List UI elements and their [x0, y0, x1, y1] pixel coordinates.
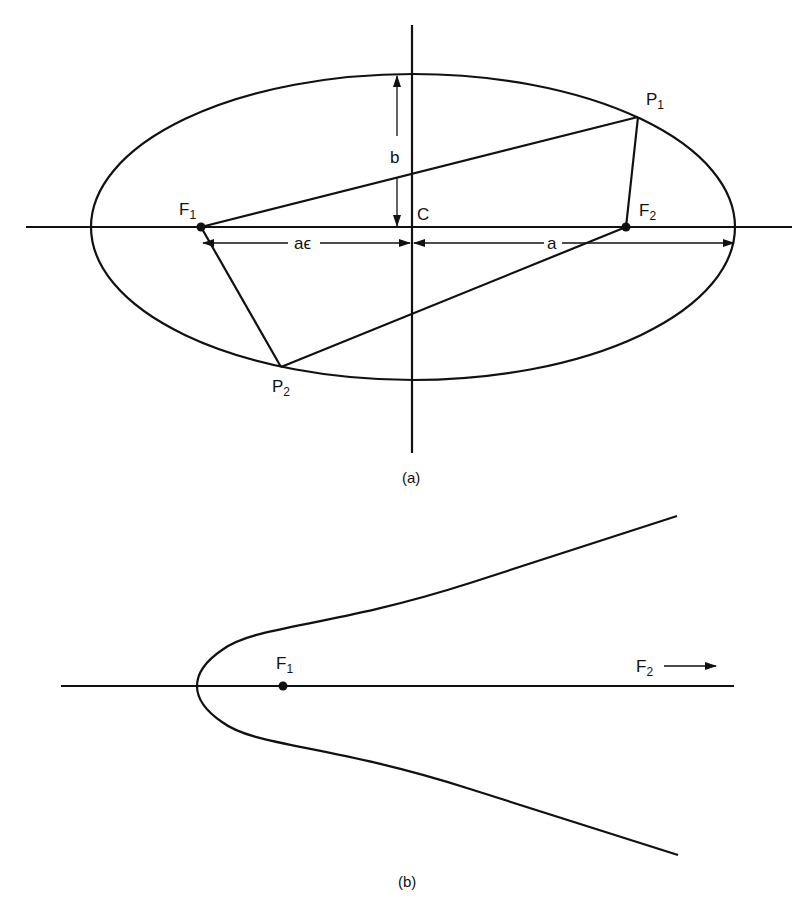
- focus-f1-dot: [197, 223, 206, 232]
- radius-f2-p1: [626, 117, 638, 227]
- figure-b-caption: (b): [398, 873, 416, 890]
- focus-f2-label: F2: [639, 201, 656, 223]
- focus-f1-dot: [279, 682, 288, 691]
- radius-f2-p2: [281, 227, 626, 367]
- focus-f1-label: F1: [276, 654, 293, 676]
- point-p2-label: P2: [272, 377, 290, 399]
- center-label: C: [417, 205, 429, 224]
- semi-major-axis-label: a: [547, 234, 557, 253]
- focus-f2-label: F2: [636, 657, 653, 679]
- point-p1-label: P1: [646, 90, 664, 112]
- focus-f2-dot: [622, 223, 631, 232]
- conic-sections-figure: b C aϵ a F1 F2 P1 P2 (a) F1 F2 (b): [0, 0, 792, 903]
- figure-a-caption: (a): [402, 469, 420, 486]
- figure-b-hyperbola-diagram: F1 F2 (b): [61, 516, 734, 890]
- semi-minor-axis-label: b: [390, 148, 399, 167]
- focus-f1-label: F1: [179, 200, 196, 222]
- figure-a-ellipse-diagram: b C aϵ a F1 F2 P1 P2 (a): [26, 25, 792, 486]
- focal-distance-label: aϵ: [294, 234, 311, 253]
